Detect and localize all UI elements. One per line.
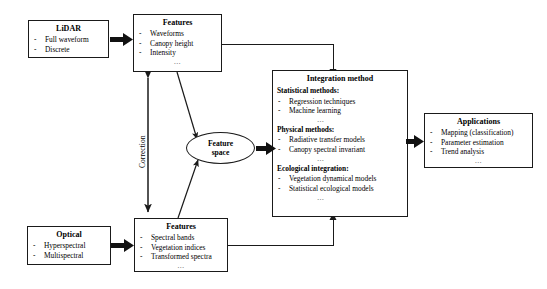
node-feature-space: Feature space (186, 132, 255, 164)
list-item: Spectral bands (135, 233, 227, 243)
integration-group-ecological-items: Vegetation dynamical models Statistical … (273, 174, 407, 193)
connector-lidar-features-to-integration-vertical (333, 44, 334, 71)
arrow-lidar-to-features (110, 33, 133, 46)
diagram-canvas: LiDAR Full waveform Discrete Features Wa… (0, 0, 547, 289)
connector-optical-features-to-integration-vertical (333, 217, 334, 246)
node-optical: Optical Hyperspectral Multispectral (27, 226, 111, 265)
list-item: Canopy spectral invariant (273, 145, 407, 155)
list-item: Vegetation dynamical models (273, 174, 407, 184)
node-applications: Applications Mapping (classification) Pa… (424, 113, 533, 168)
list-item: Hyperspectral (28, 241, 110, 251)
list-item: Discrete (29, 45, 108, 55)
list-item: Vegetation indices (135, 243, 227, 253)
node-optical-features-title: Features (135, 222, 227, 232)
integration-group-ecological: Ecological integration: Vegetation dynam… (273, 164, 407, 203)
integration-group-statistical-ellipsis: … (273, 116, 407, 125)
integration-group-physical-items: Radiative transfer models Canopy spectra… (273, 135, 407, 154)
node-feature-space-line1: Feature (208, 139, 233, 149)
node-lidar-features-items: Waveforms Canopy height Intensity (134, 29, 221, 58)
node-lidar-features: Features Waveforms Canopy height Intensi… (133, 14, 222, 72)
node-lidar-title: LiDAR (29, 24, 108, 34)
arrow-integration-to-applications (406, 135, 424, 148)
list-item: Mapping (classification) (425, 128, 532, 138)
connector-lidar-features-to-integration-horizontal (221, 44, 334, 45)
list-item: Radiative transfer models (273, 135, 407, 145)
node-optical-features: Features Spectral bands Vegetation indic… (134, 218, 228, 272)
list-item: Parameter estimation (425, 138, 532, 148)
integration-group-physical-ellipsis: … (273, 155, 407, 164)
list-item: Regression techniques (273, 97, 407, 107)
node-lidar-features-title: Features (134, 18, 221, 28)
list-item: Canopy height (134, 39, 221, 49)
node-integration-method: Integration method Statistical methods: … (272, 70, 408, 217)
list-item: Full waveform (29, 35, 108, 45)
integration-group-physical-heading: Physical methods: (273, 125, 407, 135)
node-lidar-items: Full waveform Discrete (29, 35, 108, 54)
node-optical-features-items: Spectral bands Vegetation indices Transf… (135, 233, 227, 262)
connector-correction-label: Correction (138, 136, 147, 168)
integration-group-statistical-heading: Statistical methods: (273, 86, 407, 96)
node-optical-items: Hyperspectral Multispectral (28, 241, 110, 260)
arrow-optical-to-features (111, 239, 134, 252)
node-feature-space-line2: space (212, 148, 230, 158)
integration-group-ecological-ellipsis: … (273, 194, 407, 203)
list-item: Statistical ecological models (273, 184, 407, 194)
list-item: Waveforms (134, 29, 221, 39)
integration-group-physical: Physical methods: Radiative transfer mod… (273, 125, 407, 164)
node-applications-title: Applications (425, 117, 532, 127)
integration-group-statistical-items: Regression techniques Machine learning (273, 97, 407, 116)
list-item: Intensity (134, 48, 221, 58)
integration-group-statistical: Statistical methods: Regression techniqu… (273, 86, 407, 125)
connector-optical-features-to-integration-horizontal (227, 245, 334, 246)
node-optical-features-ellipsis: … (135, 262, 227, 270)
integration-group-ecological-heading: Ecological integration: (273, 164, 407, 174)
node-lidar: LiDAR Full waveform Discrete (28, 20, 109, 58)
node-applications-ellipsis: … (425, 157, 532, 165)
list-item: Transformed spectra (135, 252, 227, 262)
node-applications-items: Mapping (classification) Parameter estim… (425, 128, 532, 157)
node-integration-title: Integration method (273, 74, 407, 84)
node-lidar-features-ellipsis: … (134, 58, 221, 66)
list-item: Multispectral (28, 251, 110, 261)
list-item: Machine learning (273, 106, 407, 116)
node-optical-title: Optical (28, 230, 110, 240)
list-item: Trend analysis (425, 147, 532, 157)
